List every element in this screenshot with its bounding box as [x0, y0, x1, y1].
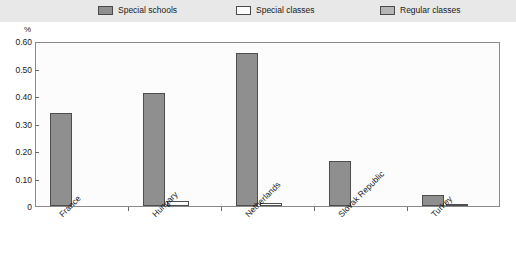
- legend-label-regular-classes: Regular classes: [400, 5, 460, 15]
- bar-hungary-special-schools: [143, 93, 165, 206]
- legend-label-special-classes: Special classes: [256, 5, 315, 15]
- y-axis-tick-label: 0.40: [2, 92, 32, 102]
- chart-legend: Special schools Special classes Regular …: [0, 0, 516, 22]
- legend-label-special-schools: Special schools: [118, 5, 177, 15]
- legend-item-special-classes: Special classes: [236, 5, 315, 15]
- y-axis-tick-mark: [35, 97, 39, 98]
- legend-swatch-icon-special-schools: [98, 6, 113, 15]
- y-axis-tick-label: 0.50: [2, 65, 32, 75]
- x-axis-group-tick: [221, 207, 222, 211]
- y-axis-tick-label: 0: [2, 202, 32, 212]
- legend-item-special-schools: Special schools: [98, 5, 177, 15]
- y-axis-tick-label: 0.60: [2, 37, 32, 47]
- y-axis-tick-label: 0.10: [2, 175, 32, 185]
- bars-container: [36, 43, 499, 206]
- x-axis-group-tick: [314, 207, 315, 211]
- bar-france-special-schools: [50, 113, 72, 207]
- y-axis-tick-mark: [35, 125, 39, 126]
- y-axis-tick-label: 0.30: [2, 120, 32, 130]
- y-axis-tick-label: 0.20: [2, 147, 32, 157]
- y-axis: 00.100.200.300.400.500.60: [0, 42, 32, 207]
- plot-area: [35, 42, 500, 207]
- bar-netherlands-special-schools: [236, 53, 258, 206]
- y-axis-tick-mark: [35, 152, 39, 153]
- legend-swatch-icon-special-classes: [236, 6, 251, 15]
- x-axis-group-tick: [128, 207, 129, 211]
- x-axis-group-tick: [407, 207, 408, 211]
- y-axis-tick-mark: [35, 70, 39, 71]
- legend-item-regular-classes: Regular classes: [380, 5, 460, 15]
- legend-swatch-icon-regular-classes: [380, 6, 395, 15]
- y-axis-unit-label: %: [24, 25, 31, 34]
- y-axis-tick-mark: [35, 180, 39, 181]
